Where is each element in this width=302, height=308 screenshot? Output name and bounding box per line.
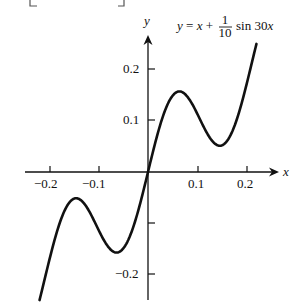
eq-equals: =	[183, 18, 197, 33]
cropped-bracket-left	[30, 0, 37, 6]
cropped-bracket-right	[118, 0, 124, 6]
x-axis-label: x	[282, 164, 289, 179]
y-tick-label: 0.2	[123, 61, 139, 76]
x-tick-label: 0.2	[237, 176, 253, 191]
svg-text:y = x +: y = x +	[175, 18, 213, 33]
y-axis-label: y	[142, 13, 150, 28]
x-tick-label: −0.1	[82, 176, 106, 191]
function-plot: x y −0.2 −0.1 0.1 0.2 0.2 0.1 −0.2 y = x…	[0, 0, 302, 308]
x-tick-label: 0.1	[188, 176, 204, 191]
svg-text:sin 30x: sin 30x	[236, 18, 273, 33]
x-tick-label: −0.2	[34, 176, 58, 191]
y-tick-label: −0.2	[115, 266, 139, 281]
equation-annotation: y = x + 1 10 sin 30x	[175, 12, 273, 40]
y-tick-label: 0.1	[123, 112, 139, 127]
svg-text:10: 10	[219, 25, 232, 40]
